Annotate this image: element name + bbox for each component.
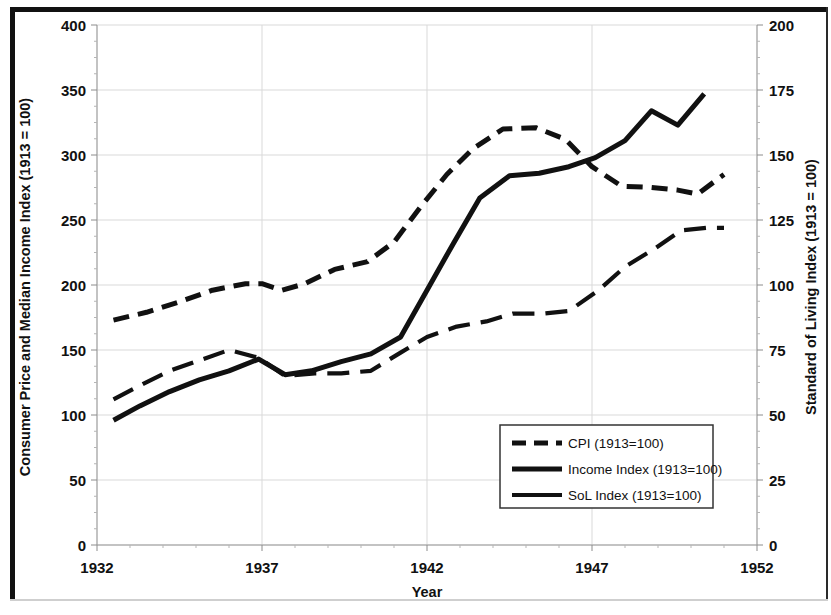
y-tick-right-label: 200	[769, 17, 794, 34]
y-tick-right-label: 0	[769, 537, 777, 554]
x-tick-label: 1937	[245, 559, 278, 576]
line-chart: 050100150200250300350400 025507510012515…	[0, 0, 831, 615]
y-tick-label: 150	[61, 342, 86, 359]
y-axis-left-title: Consumer Price and Median Income Index (…	[17, 98, 33, 477]
y-tick-label: 250	[61, 212, 86, 229]
x-tick-label: 1952	[740, 559, 773, 576]
x-tick-label: 1932	[80, 559, 113, 576]
y-tick-right-label: 100	[769, 277, 794, 294]
y-tick-right-label: 175	[769, 82, 794, 99]
y-tick-right-label: 75	[769, 342, 786, 359]
y-axis-right-tick-labels: 0255075100125150175200	[769, 17, 794, 554]
data-series-group	[114, 94, 725, 420]
y-tick-label: 100	[61, 407, 86, 424]
series-income	[114, 94, 705, 420]
y-axis-tick-labels: 050100150200250300350400	[61, 17, 86, 554]
y-tick-right-label: 125	[769, 212, 794, 229]
x-tick-label: 1942	[410, 559, 443, 576]
chart-legend: CPI (1913=100)Income Index (1913=100)SoL…	[500, 425, 722, 508]
y-tick-right-label: 25	[769, 472, 786, 489]
legend-label-0: CPI (1913=100)	[568, 436, 664, 451]
x-axis-title: Year	[412, 584, 443, 600]
y-tick-label: 200	[61, 277, 86, 294]
y-tick-label: 350	[61, 82, 86, 99]
y-tick-label: 400	[61, 17, 86, 34]
series-cpi	[114, 128, 725, 320]
legend-label-1: Income Index (1913=100)	[568, 462, 722, 477]
y-tick-right-label: 50	[769, 407, 786, 424]
y-tick-right-label: 150	[769, 147, 794, 164]
y-tick-label: 0	[78, 537, 86, 554]
y-tick-label: 300	[61, 147, 86, 164]
y-axis-right-title: Standard of Living Index (1913 = 100)	[803, 159, 819, 415]
legend-label-2: SoL Index (1913=100)	[568, 488, 701, 503]
x-axis-tick-labels: 19321937194219471952	[80, 559, 773, 576]
y-tick-label: 50	[69, 472, 86, 489]
chart-figure: 050100150200250300350400 025507510012515…	[0, 0, 831, 615]
x-tick-label: 1947	[575, 559, 608, 576]
series-sol	[114, 228, 725, 400]
